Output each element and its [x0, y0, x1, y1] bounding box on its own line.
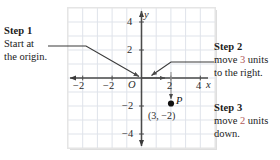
step-2-title: Step 2	[214, 41, 280, 54]
step-1-line-1: Start at	[4, 38, 70, 51]
y-tick-label-neg2: −2	[122, 100, 133, 111]
x-axis-label: x	[206, 79, 211, 90]
step-3-title: Step 3	[214, 102, 280, 115]
x-tick-label-2: 2	[167, 80, 172, 91]
step-3-annotation: Step 3 move 2 units down.	[214, 102, 280, 140]
step-3-move-text: move	[214, 115, 240, 126]
step-2-units-text: units	[245, 54, 268, 65]
point-coords-label: (3, −2)	[148, 110, 175, 121]
coordinate-plane-figure: −2 −2 2 4 4 2 −2 −4 O x y P (3, −2) Step…	[0, 0, 280, 160]
axes	[70, 11, 208, 146]
step-2-line-1: move 3 units	[214, 54, 280, 67]
origin-label: O	[128, 79, 136, 90]
y-tick-label-4: 4	[127, 16, 132, 27]
step-1-title: Step 1	[4, 25, 70, 38]
y-tick-label-neg4: −4	[122, 128, 133, 139]
step-2-move-text: move	[214, 54, 240, 65]
step-2-annotation: Step 2 move 3 units to the right.	[214, 41, 280, 79]
step-3-units-text: units	[245, 115, 268, 126]
x-tick-label-neg2: −2	[103, 80, 114, 91]
step-1-line-2: the origin.	[4, 51, 70, 64]
y-axis-label: y	[144, 9, 149, 20]
point-P	[168, 100, 174, 106]
step-3-line-2: down.	[214, 128, 280, 141]
x-tick-label-neg4: −2	[73, 80, 84, 91]
step-2-line-2: to the right.	[214, 67, 280, 80]
y-tick-label-2: 2	[127, 44, 132, 55]
point-label-P: P	[176, 95, 182, 106]
x-tick-label-4: 4	[196, 80, 201, 91]
step-3-line-1: move 2 units	[214, 115, 280, 128]
step-1-annotation: Step 1 Start at the origin.	[4, 25, 70, 63]
